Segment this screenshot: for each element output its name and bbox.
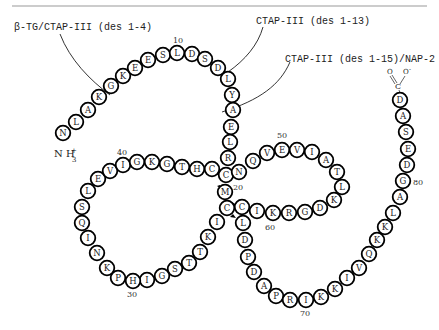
- residue-50: I: [81, 231, 96, 246]
- residue-26: I: [305, 145, 320, 160]
- residue-letter: G: [400, 176, 407, 186]
- residue-41: T: [193, 245, 208, 260]
- residue-chain: NLAKGKEESLDSDLYAELRCNQVEVIATLKDGRKICMCIK…: [56, 46, 416, 308]
- residue-34: K: [266, 206, 281, 221]
- residue-67: A: [257, 279, 272, 294]
- residue-letter: E: [132, 63, 138, 73]
- residue-63: L: [236, 216, 251, 231]
- residue-letter: E: [405, 144, 411, 154]
- c-terminus-carboxylate: O O - C: [387, 65, 411, 93]
- residue-letter: K: [331, 195, 338, 205]
- residue-letter: L: [174, 48, 180, 58]
- residue-letter: C: [223, 170, 230, 180]
- residue-letter: E: [228, 122, 234, 132]
- residue-letter: A: [399, 111, 407, 121]
- number-30: 30: [127, 290, 137, 299]
- residue-letter: L: [240, 218, 246, 228]
- residue-letter: S: [79, 202, 85, 212]
- residue-letter: K: [374, 235, 381, 245]
- residue-letter: T: [179, 162, 185, 172]
- residue-40: K: [201, 230, 216, 245]
- residue-letter: K: [205, 232, 212, 242]
- residue-64: D: [238, 233, 253, 248]
- residue-18: L: [223, 135, 238, 150]
- residue-letter: G: [164, 159, 171, 169]
- residue-51: Q: [75, 216, 90, 231]
- residue-letter: E: [145, 55, 151, 65]
- residue-letter: D: [397, 95, 404, 105]
- number-70: 70: [300, 309, 310, 318]
- residue-14: L: [221, 72, 236, 87]
- residue-35: I: [250, 204, 265, 219]
- residue-letter: T: [334, 167, 340, 177]
- residue-letter: I: [121, 160, 124, 170]
- residue-70: I: [299, 293, 314, 308]
- residue-46: H: [126, 274, 141, 289]
- residue-59: G: [160, 157, 175, 172]
- svg-text:O: O: [387, 68, 393, 76]
- residue-letter: D: [189, 49, 196, 59]
- residue-80: G: [396, 174, 411, 189]
- residue-letter: S: [172, 264, 178, 274]
- residue-62: C: [205, 162, 220, 177]
- residue-31: D: [313, 201, 328, 216]
- residue-letter: V: [106, 166, 114, 176]
- residue-letter: I: [310, 147, 313, 157]
- residue-69: R: [283, 293, 298, 308]
- residue-22: Q: [246, 154, 261, 169]
- residue-12: S: [198, 52, 213, 67]
- residue-letter: R: [287, 295, 294, 305]
- residue-letter: Q: [250, 156, 257, 166]
- residue-letter: D: [404, 160, 411, 170]
- residue-66: D: [247, 265, 262, 280]
- residue-letter: S: [403, 127, 409, 137]
- label-ctap-15: CTAP-III (des 1-15)/NAP-2: [285, 54, 435, 65]
- residue-letter: K: [382, 222, 389, 232]
- pointer-ctap-13: [228, 27, 263, 72]
- residue-letter: G: [159, 271, 166, 281]
- svg-text:3: 3: [72, 156, 76, 164]
- residue-78: L: [386, 206, 401, 221]
- number-20: 20: [233, 183, 243, 192]
- residue-38: C: [220, 201, 235, 216]
- residue-74: V: [352, 261, 367, 276]
- residue-2: L: [69, 115, 84, 130]
- residue-3: A: [81, 103, 96, 118]
- residue-letter: C: [209, 164, 216, 174]
- residue-letter: A: [84, 105, 92, 115]
- residue-56: I: [116, 158, 131, 173]
- residue-37: M: [218, 185, 233, 200]
- n-terminus-label: N H + 3: [54, 147, 77, 164]
- residue-letter: L: [227, 137, 233, 147]
- residue-letter: D: [242, 235, 249, 245]
- residue-letter: K: [120, 71, 127, 81]
- residue-19: R: [221, 151, 236, 166]
- residue-10: L: [170, 46, 185, 61]
- number-60: 60: [265, 223, 275, 232]
- residue-letter: P: [115, 273, 121, 283]
- residue-letter: I: [215, 217, 218, 227]
- residue-71: K: [314, 290, 329, 305]
- residue-21: N: [232, 165, 247, 180]
- residue-letter: D: [215, 63, 222, 73]
- residue-73: I: [340, 271, 355, 286]
- number-80: 80: [413, 178, 423, 187]
- residue-letter: L: [73, 117, 79, 127]
- residue-letter: D: [317, 203, 324, 213]
- residue-letter: K: [270, 208, 277, 218]
- residue-letter: V: [355, 263, 363, 273]
- residue-letter: I: [145, 275, 148, 285]
- residue-letter: Y: [228, 90, 235, 100]
- residue-letter: L: [390, 208, 396, 218]
- residue-letter: P: [273, 291, 279, 301]
- residue-letter: D: [251, 267, 258, 277]
- number-40: 40: [117, 148, 127, 157]
- residue-letter: Q: [79, 218, 86, 228]
- residue-letter: G: [134, 157, 141, 167]
- residue-83: S: [399, 125, 414, 140]
- label-beta-tg: β-TG/CTAP-III (des 1-4): [14, 22, 152, 33]
- residue-33: R: [282, 206, 297, 221]
- residue-letter: S: [160, 50, 166, 60]
- residue-60: T: [175, 160, 190, 175]
- residue-76: K: [370, 233, 385, 248]
